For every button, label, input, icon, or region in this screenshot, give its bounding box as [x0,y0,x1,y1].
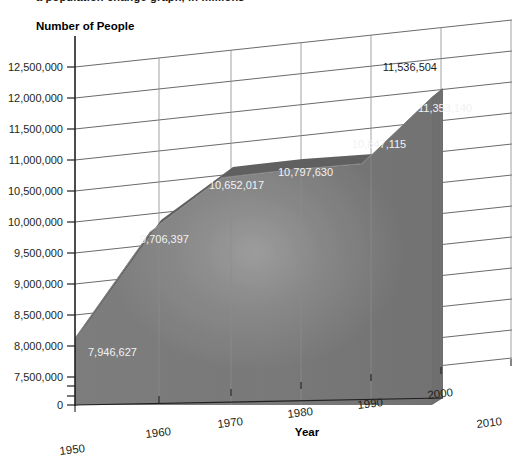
ytick-label: 9,000,000 [14,278,63,290]
data-label: 10,847,115 [352,138,406,150]
area-chart-svg: 12,500,000 12,000,000 11,500,000 11,000,… [0,0,523,463]
ytick-label: 12,500,000 [8,61,63,73]
ytick-label: 7,500,000 [14,371,63,383]
x-axis-title: Year [295,426,320,438]
xtick-label: 1970 [217,415,244,430]
data-label: 11,536,504 [383,61,437,73]
y-axis-title: Number of People [36,20,134,32]
ytick-label: 11,500,000 [9,123,63,135]
ytick-label: 8,500,000 [14,309,63,321]
clipped-caption-text: a population change graph, in millions [36,0,245,3]
ytick-label: 0 [57,399,63,411]
xtick-label: 1980 [287,405,314,420]
xtick-label: 1950 [59,442,86,457]
data-label: 11,353,140 [418,102,472,114]
area-right-end-face [432,88,443,405]
y-axis-ticks [67,67,75,405]
data-label: 10,652,017 [209,179,264,191]
ytick-label: 10,000,000 [8,216,63,228]
ytick-label: 12,000,000 [8,92,63,104]
chart-container: a population change graph, in millions [0,0,523,463]
xtick-label: 2010 [476,415,503,430]
xtick-label: 1960 [145,425,172,440]
xtick-label: 2000 [427,386,454,401]
y-axis-tick-labels: 12,500,000 12,000,000 11,500,000 11,000,… [8,61,63,411]
data-label: 7,946,627 [88,346,137,358]
ytick-label: 11,000,000 [9,154,63,166]
data-label: 10,797,630 [278,166,333,178]
ytick-label: 9,500,000 [14,247,63,259]
xtick-label: 1990 [357,396,384,411]
ytick-label: 8,000,000 [14,340,63,352]
data-label: 9,706,397 [140,233,189,245]
ytick-label: 10,500,000 [8,185,63,197]
